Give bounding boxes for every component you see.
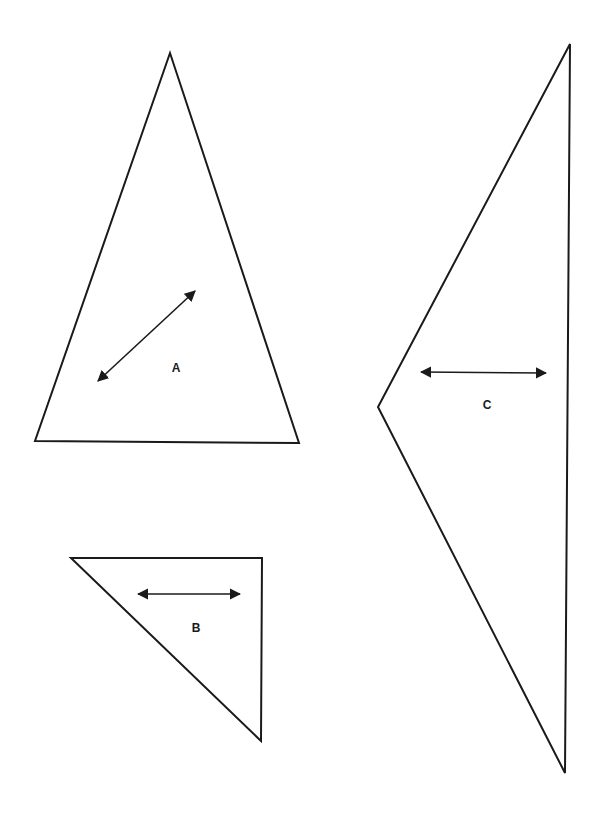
- triangles-diagram: A B C: [0, 0, 605, 824]
- triangle-c: C: [378, 44, 570, 773]
- label-c: C: [483, 398, 492, 412]
- double-arrow-a: [98, 291, 195, 381]
- triangle-b: B: [71, 558, 262, 741]
- label-b: B: [192, 621, 201, 635]
- label-a: A: [172, 361, 181, 375]
- triangle-a: A: [35, 53, 299, 443]
- double-arrow-c: [421, 372, 546, 373]
